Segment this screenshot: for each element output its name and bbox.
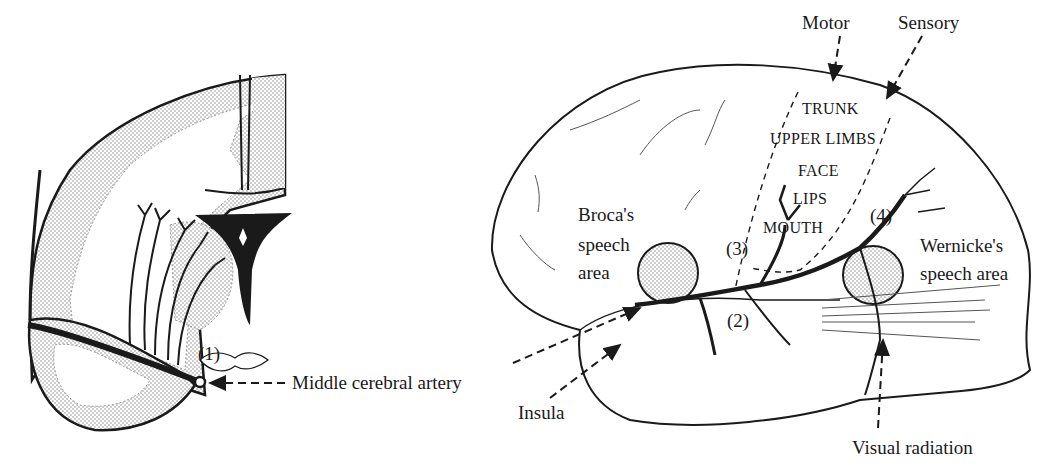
wernicke-label-line1: Wernicke's <box>920 235 1003 256</box>
homunculus-trunk: TRUNK <box>802 98 859 119</box>
wernicke-label-line2: speech area <box>920 263 1008 284</box>
motor-label: Motor <box>802 12 850 33</box>
branch-3-label: (3) <box>726 238 748 259</box>
homunculus-mouth: MOUTH <box>763 217 823 238</box>
broca-label-line2: speech <box>578 234 630 255</box>
insula-label: Insula <box>518 402 564 423</box>
homunculus-face: FACE <box>798 160 839 181</box>
visual-radiation-label: Visual radiation <box>852 437 973 458</box>
branch-4-label: (4) <box>870 205 892 226</box>
coronal-section <box>28 75 292 430</box>
branch-2-label: (2) <box>727 310 749 331</box>
homunculus-upper-limbs: UPPER LIMBS <box>770 128 876 149</box>
broca-area <box>638 243 698 303</box>
middle-cerebral-artery-label: Middle cerebral artery <box>292 372 462 393</box>
sensory-label: Sensory <box>898 12 959 33</box>
broca-label-line3: area <box>578 262 610 283</box>
mca-cross-section <box>195 377 205 387</box>
broca-label-line1: Broca's <box>578 204 634 225</box>
branch-1-label: (1) <box>198 343 220 364</box>
homunculus-lips: LIPS <box>793 188 827 209</box>
